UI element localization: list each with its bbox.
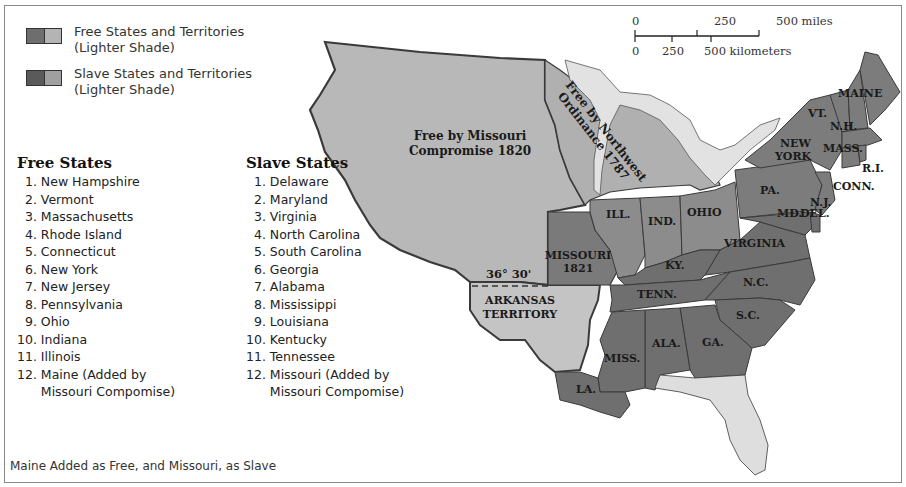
- free-states-list: Free States 1. New Hampshire 2. Vermont …: [17, 154, 175, 401]
- scale-km-0: 0: [632, 44, 639, 58]
- legend-slave-sublabel: (Lighter Shade): [74, 82, 252, 98]
- list-item: 1. New Hampshire: [17, 173, 175, 191]
- scale-km-250: 250: [662, 44, 684, 58]
- legend-item-free: Free States and Territories (Lighter Sha…: [26, 24, 252, 56]
- free-swatch: [26, 28, 62, 44]
- list-item: 11. Tennessee: [246, 348, 404, 366]
- region-florida: [655, 375, 768, 475]
- label-nh: N.H.: [830, 120, 857, 133]
- label-tenn: TENN.: [637, 288, 677, 301]
- scale-miles-250: 250: [714, 14, 736, 28]
- list-item: 3. Massachusetts: [17, 208, 175, 226]
- list-item: 9. Ohio: [17, 313, 175, 331]
- label-missouri-2: 1821: [563, 262, 594, 275]
- slave-states-list: Slave States 1. Delaware 2. Maryland 3. …: [246, 154, 404, 401]
- slave-swatch: [26, 70, 62, 86]
- scale-miles-500: 500 miles: [776, 14, 833, 28]
- list-item: 12. Maine (Added by: [17, 366, 175, 384]
- list-item: 6. Georgia: [246, 261, 404, 279]
- label-ala: ALA.: [651, 337, 681, 350]
- list-item: 4. Rhode Island: [17, 226, 175, 244]
- list-item: 2. Vermont: [17, 191, 175, 209]
- list-item: 8. Mississippi: [246, 296, 404, 314]
- label-nc: N.C.: [743, 276, 769, 289]
- list-item: 8. Pennsylvania: [17, 296, 175, 314]
- state-mississippi: [598, 310, 645, 392]
- label-ind: IND.: [648, 215, 676, 228]
- label-virginia: VIRGINIA: [723, 237, 786, 250]
- scale-km-500: 500 kilometers: [704, 44, 791, 58]
- scale-miles-0: 0: [632, 14, 639, 28]
- list-item: 5. South Carolina: [246, 243, 404, 261]
- slave-states-title: Slave States: [246, 154, 404, 173]
- label-mass: MASS.: [823, 142, 863, 155]
- list-item: 3. Virginia: [246, 208, 404, 226]
- list-item: 2. Maryland: [246, 191, 404, 209]
- scale-bar: 0 250 500 miles 0 250 500 kilometers: [628, 14, 828, 64]
- label-miss: MISS.: [604, 352, 640, 365]
- legend: Free States and Territories (Lighter Sha…: [26, 24, 252, 108]
- list-item: 6. New York: [17, 261, 175, 279]
- label-ohio: OHIO: [687, 206, 722, 219]
- list-item: 4. North Carolina: [246, 226, 404, 244]
- list-item: 11. Illinois: [17, 348, 175, 366]
- list-item: 10. Indiana: [17, 331, 175, 349]
- legend-slave-label: Slave States and Territories: [74, 66, 252, 82]
- label-del: DEL.: [800, 207, 830, 220]
- label-la: LA.: [576, 383, 596, 396]
- list-item: Missouri Compomise): [246, 383, 404, 401]
- label-pa: PA.: [760, 184, 780, 197]
- label-arkansas-2: TERRITORY: [483, 308, 558, 321]
- label-missouri-compromise-2: Compromise 1820: [409, 144, 531, 158]
- label-conn: CONN.: [833, 180, 875, 193]
- label-ky: KY.: [665, 259, 685, 272]
- list-item: 5. Connecticut: [17, 243, 175, 261]
- legend-free-label: Free States and Territories: [74, 24, 244, 40]
- label-new-york-1: NEW: [780, 137, 811, 150]
- label-latitude: 36° 30': [486, 267, 531, 281]
- free-states-title: Free States: [17, 154, 175, 173]
- label-missouri-compromise-1: Free by Missouri: [414, 129, 527, 143]
- map-caption: Maine Added as Free, and Missouri, as Sl…: [10, 459, 276, 473]
- list-item: 12. Missouri (Added by: [246, 366, 404, 384]
- list-item: Missouri Compomise): [17, 383, 175, 401]
- label-arkansas-1: ARKANSAS: [484, 294, 555, 307]
- label-missouri-1: MISSOURI: [545, 249, 611, 262]
- legend-item-slave: Slave States and Territories (Lighter Sh…: [26, 66, 252, 98]
- label-maine: MAINE: [838, 87, 882, 100]
- list-item: 7. New Jersey: [17, 278, 175, 296]
- list-item: 7. Alabama: [246, 278, 404, 296]
- label-sc: S.C.: [736, 309, 760, 322]
- list-item: 10. Kentucky: [246, 331, 404, 349]
- label-ri: R.I.: [862, 162, 884, 175]
- list-item: 9. Louisiana: [246, 313, 404, 331]
- label-ga: GA.: [702, 336, 724, 349]
- label-ill: ILL.: [606, 208, 630, 221]
- list-item: 1. Delaware: [246, 173, 404, 191]
- label-new-york-2: YORK: [774, 150, 812, 163]
- legend-free-sublabel: (Lighter Shade): [74, 40, 244, 56]
- label-vt: VT.: [807, 107, 827, 120]
- label-md: MD.: [777, 207, 802, 220]
